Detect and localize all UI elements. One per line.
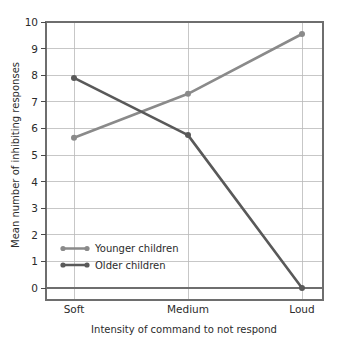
x-tick-labels: Soft Medium Loud [64,303,315,315]
y-tick-label-8: 8 [31,69,38,81]
y-tick-label-10: 10 [25,16,38,28]
y-tick-label-5: 5 [31,149,38,161]
chart-svg: 10 9 8 7 6 5 4 3 2 1 0 [0,0,346,348]
y-tick-label-4: 4 [31,176,38,188]
data-point-older-medium [185,132,191,138]
x-axis-title: Intensity of command to not respond [91,324,277,335]
y-tick-label-6: 6 [31,122,38,134]
legend-marker-older-end-icon [84,262,89,267]
y-tick-labels: 10 9 8 7 6 5 4 3 2 1 0 [25,16,39,294]
legend-label-older: Older children [95,260,166,271]
legend-label-younger: Younger children [94,243,179,254]
y-tick-label-3: 3 [31,202,38,214]
legend-marker-younger-end-icon [84,246,89,251]
legend-marker-younger-start-icon [60,246,65,251]
data-point-younger-medium [185,91,191,97]
y-tick-label-0: 0 [31,282,38,294]
y-axis-title: Mean number of inhibiting responses [10,62,21,248]
y-tick-label-1: 1 [31,255,38,267]
legend-marker-older-start-icon [60,262,65,267]
line-chart: 10 9 8 7 6 5 4 3 2 1 0 [0,0,346,348]
tick-band-border [46,288,323,300]
data-point-younger-loud [299,31,305,37]
data-point-younger-soft [71,135,77,141]
data-point-older-loud [299,285,305,291]
x-tick-label-soft: Soft [64,303,85,315]
x-tick-label-medium: Medium [167,303,209,315]
data-point-older-soft [71,75,77,81]
y-tick-label-9: 9 [31,43,38,55]
x-tick-label-loud: Loud [289,303,314,315]
y-tick-label-7: 7 [31,96,38,108]
y-tick-marks [41,22,46,288]
y-tick-label-2: 2 [31,229,38,241]
